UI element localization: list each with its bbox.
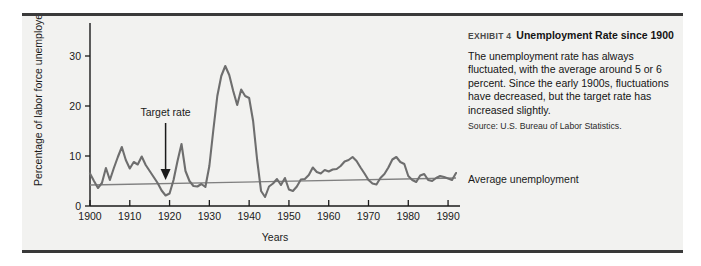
x-tick-label: 1930 xyxy=(198,210,222,222)
exhibit-panel: 0102030 19001910192019301940195019601970… xyxy=(22,13,683,253)
exhibit-heading: EXHIBIT 4Unemployment Rate since 1900 xyxy=(468,25,680,43)
x-tick-label: 1920 xyxy=(158,210,182,222)
unemployment-rate-line xyxy=(90,66,456,197)
exhibit-text-panel: EXHIBIT 4Unemployment Rate since 1900 Th… xyxy=(468,25,680,132)
exhibit-body-text: The unemployment rate has always fluctua… xyxy=(468,50,680,117)
target-rate-label: Target rate xyxy=(140,106,190,118)
y-tick-label: 20 xyxy=(69,100,81,112)
x-tick-label: 1970 xyxy=(357,210,381,222)
x-tick-label: 1960 xyxy=(317,210,341,222)
y-axis-title: Percentage of labor force unemployed xyxy=(32,16,44,186)
y-tick-label: 30 xyxy=(69,50,81,62)
y-axis-ticks: 0102030 xyxy=(69,50,90,212)
exhibit-title: Unemployment Rate since 1900 xyxy=(516,29,674,41)
x-tick-label: 1950 xyxy=(277,210,301,222)
exhibit-number: EXHIBIT 4 xyxy=(468,31,511,41)
y-tick-label: 10 xyxy=(69,150,81,162)
x-tick-label: 1910 xyxy=(118,210,142,222)
x-tick-label: 1940 xyxy=(237,210,261,222)
chart-svg: 0102030 19001910192019301940195019601970… xyxy=(22,16,467,250)
x-axis-title: Years xyxy=(262,231,288,243)
x-tick-label: 1980 xyxy=(397,210,421,222)
unemployment-chart: 0102030 19001910192019301940195019601970… xyxy=(22,16,467,250)
exhibit-source-text: Source: U.S. Bureau of Labor Statistics. xyxy=(468,120,680,132)
target-rate-arrow-head xyxy=(161,169,171,180)
x-axis-ticks: 1900191019201930194019501960197019801990 xyxy=(78,200,460,222)
x-tick-label: 1900 xyxy=(78,210,102,222)
average-unemployment-callout: Average unemployment xyxy=(468,173,579,185)
